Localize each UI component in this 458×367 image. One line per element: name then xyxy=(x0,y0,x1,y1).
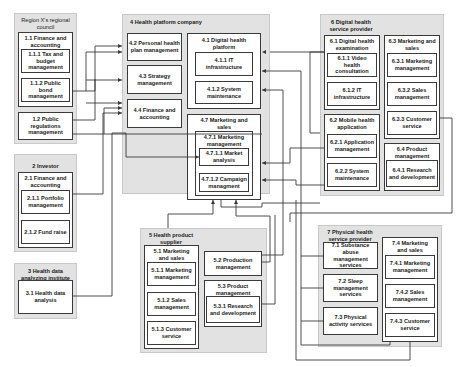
node-4-7-1-1-market-analysis[interactable]: 4.7.1.1 Market analysis xyxy=(199,148,249,166)
node-label: 2.1 Finance and accounting xyxy=(19,175,72,188)
group-title: 2 Investor xyxy=(15,163,76,170)
node-6-4-1-research-development[interactable]: 6.4.1 Research and development xyxy=(386,160,438,187)
node-5-2-production-management[interactable]: 5.2 Production management xyxy=(204,251,262,276)
node-5-3-1-research-development[interactable]: 5.3.1 Research and development xyxy=(206,296,260,323)
group-title: 4 Health platform company xyxy=(123,19,209,26)
node-7-1-substance-abuse[interactable]: 7.1 Substance abuse management services xyxy=(323,242,378,269)
node-6-1-2-it-infrastructure[interactable]: 6.1.2 IT infrastructure xyxy=(327,82,377,106)
node-4-1-1-it-infrastructure[interactable]: 4.1.1 IT infrastructure xyxy=(195,52,253,76)
node-2-1-1-portfolio[interactable]: 2.1.1 Portfolio management xyxy=(21,190,70,214)
node-1-1-1-tax-budget[interactable]: 1.1.1 Tax and budget management xyxy=(21,49,70,73)
node-label: 4.1 Digital health platform xyxy=(188,37,260,50)
group-title: 6 Digital health service provider xyxy=(321,19,381,32)
node-5-1-3-customer-service[interactable]: 5.1.3 Customer service xyxy=(147,321,196,345)
node-5-1-1-marketing-management[interactable]: 5.1.1 Marketing management xyxy=(147,262,196,286)
node-label: 4.7 Marketing and sales xyxy=(188,117,260,130)
node-label: 5.3 Product management xyxy=(205,283,261,296)
node-1-2-public-regulations[interactable]: 1.2 Public regulations management xyxy=(18,112,73,140)
node-label: 5.1 Marketing and sales xyxy=(145,248,198,261)
node-label: 4.7.1 Marketing management xyxy=(196,134,252,147)
node-6-2-1-application-management[interactable]: 6.2.1 Application management xyxy=(327,134,377,158)
node-6-1-1-video-health-consultation[interactable]: 6.1.1 Video health consultation xyxy=(327,53,377,77)
node-5-1-2-sales-management[interactable]: 5.1.2 Sales management xyxy=(147,292,196,316)
group-title: 5 Health product supplier xyxy=(141,232,201,245)
node-6-2-2-system-maintenance[interactable]: 6.2.2 System maintenance xyxy=(327,163,377,187)
group-title: Region X's regional council xyxy=(15,17,76,30)
node-7-3-physical-activity[interactable]: 7.3 Physical activity services xyxy=(323,307,378,335)
node-6-3-1-marketing-management[interactable]: 6.3.1 Marketing management xyxy=(387,53,437,77)
node-4-3-strategy[interactable]: 4.3 Strategy management xyxy=(127,65,182,94)
node-7-4-3-customer-service[interactable]: 7.4.3 Customer service xyxy=(385,313,435,337)
group-title: 7 Physical health service provider xyxy=(319,229,381,242)
node-6-3-2-sales-management[interactable]: 6.3.2 Sales management xyxy=(387,82,437,106)
node-4-7-1-2-campaign-management[interactable]: 4.7.1.2 Campaign managment xyxy=(199,173,249,192)
node-label: 6.4 Product management xyxy=(385,146,439,159)
node-3-1-health-data-analysis[interactable]: 3.1 Health data analysis xyxy=(18,280,73,314)
node-4-2-personal-health-plan[interactable]: 4.2 Personal health plan management xyxy=(127,33,182,61)
node-label: 6.1 Digital health examination xyxy=(325,38,379,51)
node-7-4-2-sales-management[interactable]: 7.4.2 Sales management xyxy=(385,284,435,308)
node-7-4-1-marketing-management[interactable]: 7.4.1 Marketing management xyxy=(385,255,435,279)
node-4-4-finance[interactable]: 4.4 Finance and accounting xyxy=(127,99,182,128)
node-label: 6.2 Mobile health application xyxy=(325,117,379,130)
node-6-3-3-customer-service[interactable]: 6.3.3 Customer service xyxy=(387,111,437,135)
node-2-1-2-fund-raise[interactable]: 2.1.2 Fund raise xyxy=(21,220,70,244)
node-7-2-sleep-management[interactable]: 7.2 Sleep management services xyxy=(323,274,378,302)
node-label: 1.1 Finance and accounting xyxy=(19,35,72,48)
node-4-1-2-system-maintenance[interactable]: 4.1.2 System maintenance xyxy=(195,81,253,104)
node-1-1-2-public-bond[interactable]: 1.1.2 Public bond management xyxy=(21,78,70,102)
node-label: 7.4 Marketing and sales xyxy=(383,240,437,253)
node-label: 6.3 Marketing and sales xyxy=(385,38,439,51)
